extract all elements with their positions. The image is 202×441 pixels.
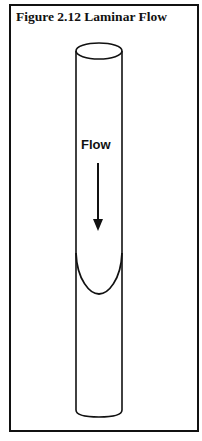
laminar-flow-diagram bbox=[0, 0, 202, 441]
tube bbox=[76, 43, 122, 417]
tube-top-ellipse bbox=[76, 43, 122, 59]
tube-bottom-curve bbox=[76, 410, 122, 417]
parabolic-velocity-profile bbox=[76, 253, 122, 294]
flow-arrow-icon bbox=[93, 163, 103, 231]
flow-label: Flow bbox=[81, 137, 111, 152]
